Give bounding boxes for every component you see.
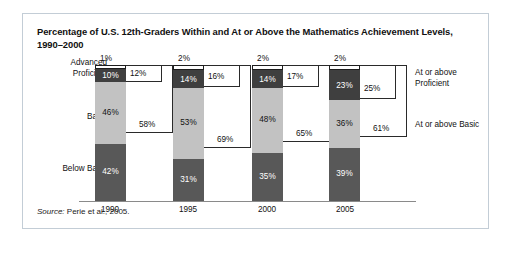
segment-value: 36% (329, 120, 360, 128)
bar-2000: 14% 48% 35% (252, 65, 283, 201)
x-axis-line (79, 201, 416, 202)
segment-value: 39% (329, 170, 360, 178)
source-note: Source: Perie et al., 2005. (37, 207, 130, 216)
x-tick-2000: 2000 (237, 205, 297, 214)
advanced-value-1990: 1% (85, 54, 127, 63)
segment-basic-2000: 48% (252, 88, 283, 153)
segment-basic-2005: 36% (329, 100, 360, 148)
bar-2005: 23% 36% 39% (329, 65, 360, 201)
segment-basic-1990: 46% (95, 82, 126, 144)
source-text: Perie et al., 2005. (67, 207, 130, 216)
segment-proficient-2000: 14% (252, 70, 283, 88)
advanced-value-1995: 2% (163, 54, 205, 63)
legend-label-at-or-above-basic: At or above Basic (415, 120, 485, 131)
bracket-value-basic-2000: 65% (296, 129, 312, 138)
segment-proficient-1995: 14% (173, 70, 204, 88)
bracket-value-basic-1995: 69% (217, 135, 233, 144)
figure-container: Percentage of U.S. 12th-Graders Within a… (22, 13, 489, 229)
segment-value: 42% (95, 168, 126, 176)
page-title: Percentage of U.S. 12th-Graders Within a… (37, 25, 467, 51)
segment-below-basic-2000: 35% (252, 153, 283, 201)
segment-proficient-1990: 10% (95, 69, 126, 82)
x-tick-1995: 1995 (158, 205, 218, 214)
advanced-value-2005: 2% (319, 54, 361, 63)
segment-below-basic-1995: 31% (173, 159, 204, 201)
segment-value: 14% (252, 76, 283, 84)
chart-plot-area: Advanced Proficient Basic Below Basic 1%… (23, 54, 490, 204)
legend-label-at-or-above-proficient: At or above Proficient (415, 68, 485, 89)
bar-1995: 14% 53% 31% (173, 65, 204, 201)
segment-below-basic-2005: 39% (329, 148, 360, 201)
segment-value: 14% (173, 76, 204, 84)
segment-value: 48% (252, 116, 283, 124)
bracket-value-basic-2005: 61% (373, 124, 389, 133)
segment-value: 31% (173, 176, 204, 184)
segment-value: 53% (173, 119, 204, 127)
advanced-value-2000: 2% (242, 54, 284, 63)
segment-value: 46% (95, 109, 126, 117)
bar-1990: 10% 46% 42% (95, 65, 126, 201)
x-tick-2005: 2005 (315, 205, 375, 214)
bracket-value-basic-1990: 58% (139, 120, 155, 129)
segment-proficient-2005: 23% (329, 70, 360, 100)
segment-below-basic-1990: 42% (95, 144, 126, 201)
segment-value: 35% (252, 173, 283, 181)
source-prefix: Source: (37, 207, 65, 216)
segment-value: 10% (95, 72, 126, 80)
segment-basic-1995: 53% (173, 88, 204, 159)
segment-value: 23% (329, 82, 360, 90)
